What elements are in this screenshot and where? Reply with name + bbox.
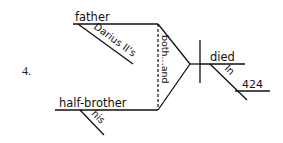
subject-1-word: father	[75, 10, 110, 24]
predicate-verb: died	[210, 50, 235, 64]
prep-object-word: 424	[242, 78, 263, 91]
subject-2-word: half-brother	[59, 96, 127, 110]
conjunction-label: both...and	[160, 35, 171, 84]
sentence-diagram: 4. father Darius II's half-brother his b…	[0, 0, 283, 143]
preposition-word: In	[223, 63, 237, 77]
problem-number: 4.	[22, 64, 31, 78]
